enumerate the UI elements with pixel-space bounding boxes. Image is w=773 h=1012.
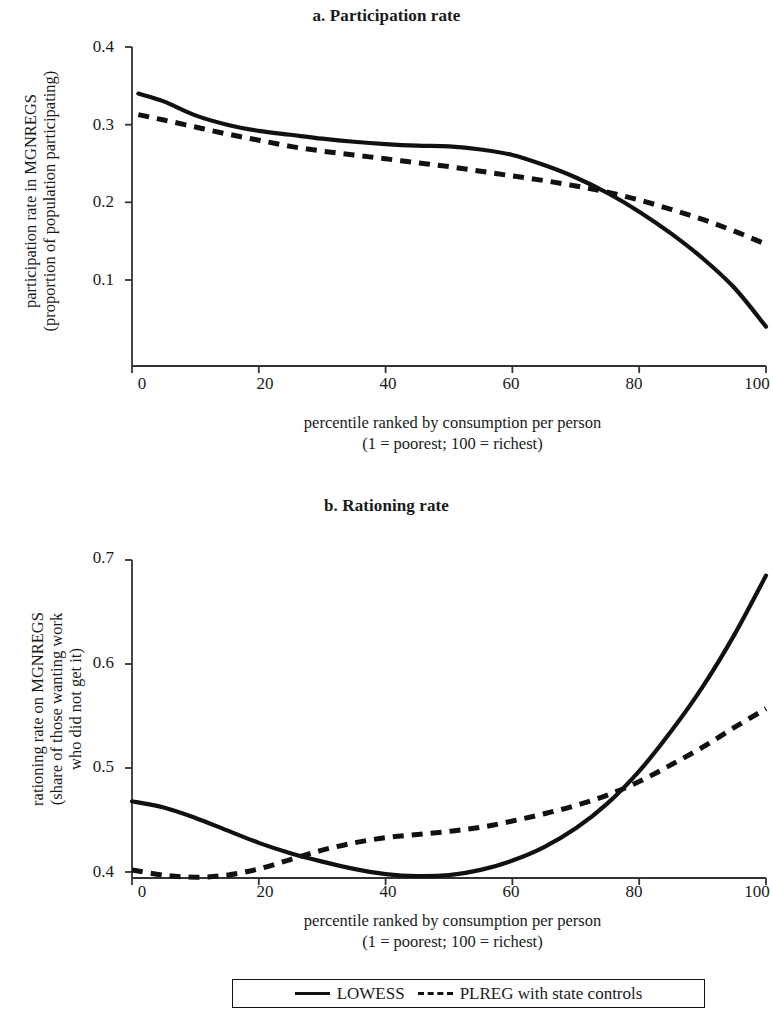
- legend-solid-line-icon: [295, 992, 330, 995]
- legend-label-plreg: PLREG with state controls: [460, 984, 643, 1004]
- legend-dashed-line-icon: [418, 992, 453, 995]
- panel-b-x-axis-label-line2: (1 = poorest; 100 = richest): [132, 931, 773, 952]
- panel-b-x-axis-label: percentile ranked by consumption per per…: [132, 910, 773, 953]
- legend-item-lowess: LOWESS: [295, 984, 405, 1004]
- panel-b-x-axis-label-line1: percentile ranked by consumption per per…: [132, 910, 773, 931]
- figure-container: a. Participation rate participation rate…: [0, 0, 773, 1012]
- series-line-plreg-with-state-controls: [138, 115, 766, 245]
- panel-b-plot-area: [0, 490, 773, 910]
- panel-a-x-axis-label-line2: (1 = poorest; 100 = richest): [132, 433, 773, 454]
- panel-rationing-rate: b. Rationing rate rationing rate on MGNR…: [0, 490, 773, 960]
- figure-legend: LOWESS PLREG with state controls: [232, 979, 705, 1008]
- panel-a-plot-area: [0, 0, 773, 400]
- legend-label-lowess: LOWESS: [337, 984, 405, 1004]
- panel-a-x-axis-label: percentile ranked by consumption per per…: [132, 412, 773, 455]
- panel-participation-rate: a. Participation rate participation rate…: [0, 0, 773, 490]
- legend-item-plreg: PLREG with state controls: [418, 984, 643, 1004]
- series-line-lowess: [132, 576, 766, 877]
- panel-a-x-axis-label-line1: percentile ranked by consumption per per…: [132, 412, 773, 433]
